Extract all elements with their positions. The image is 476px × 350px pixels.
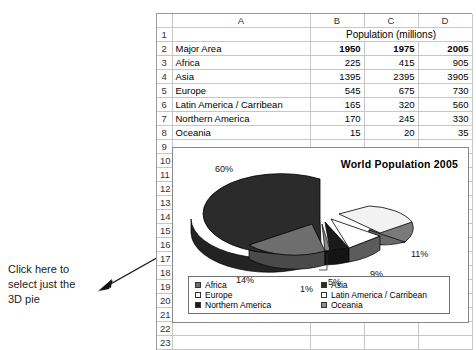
cell-d5[interactable]: 730 bbox=[418, 84, 472, 98]
cell-b22[interactable] bbox=[310, 322, 364, 336]
legend-item-africa[interactable]: Africa bbox=[195, 280, 317, 290]
cell-b4[interactable]: 1395 bbox=[310, 70, 364, 84]
cell-a8[interactable]: Oceania bbox=[172, 126, 310, 140]
legend-label-africa: Africa bbox=[205, 280, 227, 290]
row-header-21[interactable]: 21 bbox=[157, 308, 172, 322]
column-header-row: A B C D bbox=[157, 14, 472, 28]
row-header-20[interactable]: 20 bbox=[157, 294, 172, 308]
row-header-4[interactable]: 4 bbox=[157, 70, 172, 84]
cell-c5[interactable]: 675 bbox=[364, 84, 418, 98]
cell-a5[interactable]: Europe bbox=[172, 84, 310, 98]
table-row: 23 bbox=[157, 336, 472, 350]
row-header-5[interactable]: 5 bbox=[157, 84, 172, 98]
legend-item-northern-america[interactable]: Northern America bbox=[195, 300, 317, 310]
cell-b23[interactable] bbox=[310, 336, 364, 350]
row-header-2[interactable]: 2 bbox=[157, 42, 172, 56]
corner-select-all[interactable] bbox=[157, 14, 172, 28]
legend-label-northern-america: Northern America bbox=[205, 300, 271, 310]
legend-swatch-asia bbox=[321, 282, 327, 288]
cell-d23[interactable] bbox=[418, 336, 472, 350]
table-row: 3 Africa 225 415 905 bbox=[157, 56, 472, 70]
table-row: 8 Oceania 15 20 35 bbox=[157, 126, 472, 140]
cell-a6[interactable]: Latin America / Carribean bbox=[172, 98, 310, 112]
cell-b8[interactable]: 15 bbox=[310, 126, 364, 140]
cell-b3[interactable]: 225 bbox=[310, 56, 364, 70]
chart-legend[interactable]: Africa Asia Europe Latin America / Carri… bbox=[188, 276, 450, 314]
cell-a7[interactable]: Northern America bbox=[172, 112, 310, 126]
cell-d6[interactable]: 560 bbox=[418, 98, 472, 112]
row-header-3[interactable]: 3 bbox=[157, 56, 172, 70]
table-row: 5 Europe 545 675 730 bbox=[157, 84, 472, 98]
cell-d4[interactable]: 3905 bbox=[418, 70, 472, 84]
row-header-23[interactable]: 23 bbox=[157, 336, 172, 350]
row-header-10[interactable]: 10 bbox=[157, 154, 172, 168]
row-header-1[interactable]: 1 bbox=[157, 28, 172, 42]
row-header-7[interactable]: 7 bbox=[157, 112, 172, 126]
table-row: 22 bbox=[157, 322, 472, 336]
cell-a23[interactable] bbox=[172, 336, 310, 350]
pie-chart-3d[interactable] bbox=[173, 162, 469, 282]
cell-c8[interactable]: 20 bbox=[364, 126, 418, 140]
cell-c7[interactable]: 245 bbox=[364, 112, 418, 126]
row-header-6[interactable]: 6 bbox=[157, 98, 172, 112]
cell-b2[interactable]: 1950 bbox=[310, 42, 364, 56]
datalabel-asia: 60% bbox=[215, 164, 233, 174]
embedded-chart-object[interactable]: World Population 2005 60% 14% 1% bbox=[172, 147, 469, 323]
cell-d8[interactable]: 35 bbox=[418, 126, 472, 140]
legend-swatch-northern-america bbox=[195, 302, 201, 308]
cell-d3[interactable]: 905 bbox=[418, 56, 472, 70]
table-row: 6 Latin America / Carribean 165 320 560 bbox=[157, 98, 472, 112]
legend-item-europe[interactable]: Europe bbox=[195, 290, 317, 300]
cell-a22[interactable] bbox=[172, 322, 310, 336]
table-row: 7 Northern America 170 245 330 bbox=[157, 112, 472, 126]
cell-d7[interactable]: 330 bbox=[418, 112, 472, 126]
cell-c2[interactable]: 1975 bbox=[364, 42, 418, 56]
cell-c4[interactable]: 2395 bbox=[364, 70, 418, 84]
row-header-15[interactable]: 15 bbox=[157, 224, 172, 238]
column-header-b[interactable]: B bbox=[310, 14, 364, 28]
legend-item-oceania[interactable]: Oceania bbox=[321, 300, 443, 310]
legend-swatch-oceania bbox=[321, 302, 327, 308]
row-header-12[interactable]: 12 bbox=[157, 182, 172, 196]
legend-swatch-africa bbox=[195, 282, 201, 288]
cell-d22[interactable] bbox=[418, 322, 472, 336]
cell-b5[interactable]: 545 bbox=[310, 84, 364, 98]
row-header-14[interactable]: 14 bbox=[157, 210, 172, 224]
row-header-13[interactable]: 13 bbox=[157, 196, 172, 210]
cell-c3[interactable]: 415 bbox=[364, 56, 418, 70]
legend-item-asia[interactable]: Asia bbox=[321, 280, 443, 290]
row-header-11[interactable]: 11 bbox=[157, 168, 172, 182]
row-header-17[interactable]: 17 bbox=[157, 252, 172, 266]
legend-swatch-europe bbox=[195, 292, 201, 298]
cell-a4[interactable]: Asia bbox=[172, 70, 310, 84]
row-header-9[interactable]: 9 bbox=[157, 140, 172, 154]
cell-c23[interactable] bbox=[364, 336, 418, 350]
legend-label-latin-america: Latin America / Carribean bbox=[331, 290, 427, 300]
legend-label-europe: Europe bbox=[205, 290, 232, 300]
cell-d2[interactable]: 2005 bbox=[418, 42, 472, 56]
row-header-8[interactable]: 8 bbox=[157, 126, 172, 140]
table-row: 1 Population (millions) bbox=[157, 28, 472, 42]
cell-a2[interactable]: Major Area bbox=[172, 42, 310, 56]
datalabel-europe: 11% bbox=[411, 249, 428, 259]
cell-a3[interactable]: Africa bbox=[172, 56, 310, 70]
legend-label-asia: Asia bbox=[331, 280, 348, 290]
cell-c22[interactable] bbox=[364, 322, 418, 336]
row-header-19[interactable]: 19 bbox=[157, 280, 172, 294]
cell-a1[interactable] bbox=[172, 28, 310, 42]
legend-item-latin-america[interactable]: Latin America / Carribean bbox=[321, 290, 443, 300]
column-header-c[interactable]: C bbox=[364, 14, 418, 28]
row-header-22[interactable]: 22 bbox=[157, 322, 172, 336]
legend-label-oceania: Oceania bbox=[331, 300, 363, 310]
column-header-a[interactable]: A bbox=[172, 14, 310, 28]
cell-b6[interactable]: 165 bbox=[310, 98, 364, 112]
cell-b1-banner[interactable]: Population (millions) bbox=[310, 28, 472, 42]
table-row: 4 Asia 1395 2395 3905 bbox=[157, 70, 472, 84]
cell-c6[interactable]: 320 bbox=[364, 98, 418, 112]
table-row: 2 Major Area 1950 1975 2005 bbox=[157, 42, 472, 56]
row-header-16[interactable]: 16 bbox=[157, 238, 172, 252]
column-header-d[interactable]: D bbox=[418, 14, 472, 28]
cell-b7[interactable]: 170 bbox=[310, 112, 364, 126]
row-header-18[interactable]: 18 bbox=[157, 266, 172, 280]
legend-swatch-latin-america bbox=[321, 292, 327, 298]
